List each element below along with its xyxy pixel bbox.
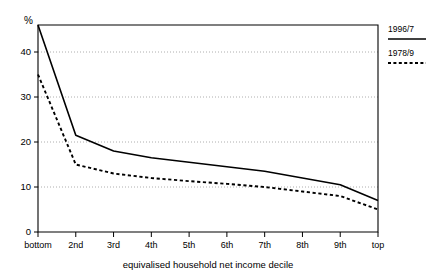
y-tick-label-40: 40 bbox=[20, 46, 31, 57]
x-axis-title: equivalised household net income decile bbox=[123, 259, 294, 270]
x-tick-label-6th: 6th bbox=[221, 240, 234, 250]
x-tick-label-2nd: 2nd bbox=[68, 240, 83, 250]
chart-container: 010203040 bottom2nd3rd4th5th6th7th8th9th… bbox=[0, 0, 430, 280]
x-tick-label-9th: 9th bbox=[334, 240, 347, 250]
plot-frame bbox=[38, 25, 378, 232]
y-axis-tick-labels: 010203040 bbox=[20, 46, 31, 237]
x-tick-label-top: top bbox=[372, 240, 385, 250]
series-lines bbox=[38, 25, 378, 210]
y-tick-label-0: 0 bbox=[26, 226, 31, 237]
y-tick-label-20: 20 bbox=[20, 136, 31, 147]
x-axis-tick-labels: bottom2nd3rd4th5th6th7th8th9thtop bbox=[24, 240, 384, 250]
y-axis-ticks bbox=[34, 52, 38, 232]
y-tick-label-30: 30 bbox=[20, 91, 31, 102]
plot-border bbox=[38, 25, 378, 232]
y-axis-unit-label: % bbox=[24, 15, 33, 26]
x-tick-label-bottom: bottom bbox=[24, 240, 52, 250]
legend-label-1996-7: 1996/7 bbox=[388, 24, 414, 34]
x-tick-label-4th: 4th bbox=[145, 240, 158, 250]
legend: 1996/71978/9 bbox=[388, 24, 426, 63]
x-tick-label-3rd: 3rd bbox=[107, 240, 120, 250]
legend-label-1978-9: 1978/9 bbox=[388, 48, 414, 58]
y-tick-label-10: 10 bbox=[20, 181, 31, 192]
x-tick-label-7th: 7th bbox=[258, 240, 271, 250]
x-tick-label-8th: 8th bbox=[296, 240, 309, 250]
x-tick-label-5th: 5th bbox=[183, 240, 196, 250]
series-line-1996-7 bbox=[38, 25, 378, 201]
x-axis-ticks bbox=[38, 232, 378, 237]
line-chart: 010203040 bottom2nd3rd4th5th6th7th8th9th… bbox=[0, 0, 430, 280]
